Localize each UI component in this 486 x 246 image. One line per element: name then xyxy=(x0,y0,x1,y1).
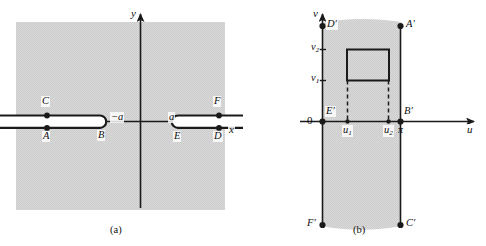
tick-label-u2-sub: 2 xyxy=(389,129,393,137)
point-Cprime-mark: ′ xyxy=(413,217,415,228)
point-Fprime-label: F′ xyxy=(306,218,317,229)
point-Dprime-label: D′ xyxy=(326,19,338,30)
point-C-label: C xyxy=(41,96,50,107)
point-Fprime-dot xyxy=(319,222,325,228)
panel-a-caption: (a) xyxy=(110,224,122,235)
point-Cprime-dot xyxy=(397,222,403,228)
point-A-label: A xyxy=(42,131,50,142)
point-Aprime-dot xyxy=(397,23,403,29)
point-E-label: E xyxy=(173,131,181,142)
figure-container: y x C A B −a F D E a (a) v u 0 D′ A′ E′ … xyxy=(0,0,486,246)
left-branch-cut xyxy=(0,116,106,128)
point-Aprime-label: A′ xyxy=(405,19,416,30)
tick-label-u1: u1 xyxy=(342,125,353,137)
a-label: a xyxy=(168,112,175,123)
point-Fprime-mark: ′ xyxy=(313,217,315,228)
point-Aprime-mark: ′ xyxy=(412,18,414,29)
tick-label-u1-sub: 1 xyxy=(348,129,352,137)
point-Cprime-label: C′ xyxy=(405,218,416,229)
v-axis-label: v xyxy=(312,8,319,19)
tick-label-v2-sub: 2 xyxy=(316,46,320,54)
y-axis-label: y xyxy=(130,8,137,19)
point-Dprime-mark: ′ xyxy=(335,18,337,29)
tick-label-pi: π xyxy=(397,125,404,135)
u-axis-label: u xyxy=(466,124,474,135)
point-Eprime-mark: ′ xyxy=(332,105,334,116)
x-axis-label: x xyxy=(228,124,235,135)
point-Eprime-dot xyxy=(319,118,325,124)
panel-b-graphics xyxy=(300,14,474,230)
panel-b-caption: (b) xyxy=(353,224,365,235)
point-Eprime-label: E′ xyxy=(325,106,336,117)
tick-label-v1: v1 xyxy=(310,73,320,85)
tick-label-v1-sub: 1 xyxy=(316,77,320,85)
figure-graphics xyxy=(0,0,486,246)
point-B-label: B xyxy=(97,130,105,141)
tick-label-u2: u2 xyxy=(383,125,394,137)
point-D-label: D xyxy=(213,131,223,142)
point-Dprime-letter: D xyxy=(327,18,335,29)
point-Bprime-mark: ′ xyxy=(410,105,412,116)
point-Cprime-letter: C xyxy=(406,217,413,228)
point-C-dot xyxy=(44,113,50,119)
minus-a-label: −a xyxy=(110,112,124,123)
tick-label-v2: v2 xyxy=(310,42,320,54)
point-F-dot xyxy=(216,113,222,119)
point-F-label: F xyxy=(213,96,221,107)
point-Bprime-label: B′ xyxy=(403,106,414,117)
point-Dprime-dot xyxy=(319,23,325,29)
origin-label: 0 xyxy=(306,115,314,126)
